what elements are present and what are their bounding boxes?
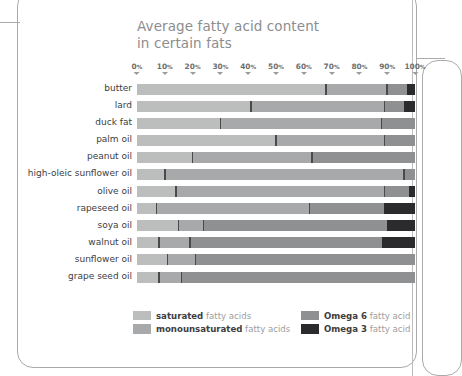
segment-omega6	[384, 186, 409, 197]
segment-divider-2	[203, 220, 205, 231]
x-axis-tick-arrow-icon	[273, 72, 279, 75]
x-axis-tick-percent-sign: %	[195, 64, 201, 70]
segment-monounsaturated	[165, 169, 404, 180]
segment-omega6	[384, 101, 403, 112]
legend-label-bold: saturated	[156, 311, 203, 321]
category-label-sunflower-oil: sunflower oil	[75, 254, 132, 264]
chart-row: soya oil	[0, 219, 445, 236]
stacked-bar	[137, 84, 415, 95]
x-axis-ticks: 0%10%20%30%40%50%60%70%80%90%100%	[137, 62, 415, 78]
legend-item-omega-3[interactable]: Omega 3 fatty acid	[301, 324, 410, 335]
category-label-butter: butter	[104, 83, 132, 93]
x-axis-tick-percent-sign: %	[278, 64, 284, 70]
x-axis-tick-90: 90%	[379, 62, 395, 75]
segment-divider-2	[384, 135, 386, 146]
stacked-bar	[137, 186, 415, 197]
legend-item-omega-6[interactable]: Omega 6 fatty acid	[301, 310, 410, 321]
segment-saturated	[137, 186, 176, 197]
x-axis-tick-label: 50	[268, 62, 278, 71]
legend-label: monounsaturated fatty acids	[156, 324, 290, 334]
category-label-lard: lard	[115, 100, 132, 110]
segment-omega6	[384, 135, 415, 146]
x-axis-tick-80: 80%	[351, 62, 367, 75]
segment-divider-2	[181, 272, 183, 283]
segment-saturated	[137, 152, 193, 163]
x-axis-tick-20: 20%	[185, 62, 201, 75]
segment-divider-1	[158, 237, 160, 248]
segment-omega6	[181, 272, 415, 283]
segment-saturated	[137, 254, 168, 265]
segment-divider-2	[311, 152, 313, 163]
legend-label: saturated fatty acids	[156, 311, 251, 321]
category-label-olive-oil: olive oil	[97, 186, 132, 196]
segment-monounsaturated	[179, 220, 204, 231]
chart-row: olive oil	[0, 185, 445, 202]
legend-label-bold: Omega 3	[324, 324, 367, 334]
chart-title-line-2: in certain fats	[137, 35, 407, 52]
segment-divider-2	[386, 84, 388, 95]
chart-bar-rows: butterlardduck fatpalm oilpeanut oilhigh…	[0, 82, 445, 287]
category-label-palm-oil: palm oil	[96, 134, 132, 144]
segment-divider-1	[250, 101, 252, 112]
x-axis-tick-100: 100%	[404, 62, 425, 75]
segment-divider-2	[384, 186, 386, 197]
segment-omega3	[407, 84, 415, 95]
segment-divider-1	[192, 152, 194, 163]
legend-label-rest: fatty acids	[242, 324, 290, 334]
segment-divider-1	[220, 118, 222, 129]
category-label-grape-seed-oil: grape seed oil	[68, 271, 132, 281]
segment-divider-2	[195, 254, 197, 265]
segment-saturated	[137, 135, 276, 146]
segment-omega6	[387, 84, 406, 95]
segment-omega6	[312, 152, 415, 163]
stacked-bar	[137, 237, 415, 248]
legend-item-saturated[interactable]: saturated fatty acids	[133, 310, 251, 321]
x-axis-tick-label: 20	[185, 62, 195, 71]
x-axis-tick-percent-sign: %	[362, 64, 368, 70]
segment-omega6	[309, 203, 384, 214]
chart-row: sunflower oil	[0, 253, 445, 270]
legend-item-monounsaturated[interactable]: monounsaturated fatty acids	[133, 324, 290, 335]
category-label-peanut-oil: peanut oil	[87, 151, 132, 161]
segment-monounsaturated	[251, 101, 384, 112]
legend-label-bold: Omega 6	[324, 311, 367, 321]
segment-divider-2	[384, 101, 386, 112]
category-label-high-oleic-sunflower-oil: high-oleic sunflower oil	[28, 168, 132, 178]
category-label-soya-oil: soya oil	[98, 220, 132, 230]
legend-swatch-icon	[133, 311, 151, 321]
chart-legend: saturated fatty acidsmonounsaturated fat…	[133, 310, 423, 340]
legend-label-rest: fatty acid	[367, 311, 410, 321]
x-axis-tick-percent-sign: %	[167, 64, 173, 70]
segment-monounsaturated	[220, 118, 381, 129]
x-axis-tick-percent-sign: %	[334, 64, 340, 70]
segment-monounsaturated	[156, 203, 309, 214]
segment-omega6	[382, 118, 415, 129]
segment-monounsaturated	[326, 84, 387, 95]
segment-omega6	[195, 254, 415, 265]
segment-saturated	[137, 203, 156, 214]
segment-divider-1	[178, 220, 180, 231]
segment-divider-1	[175, 186, 177, 197]
x-axis-tick-arrow-icon	[190, 72, 196, 75]
segment-omega3	[387, 220, 415, 231]
stacked-bar	[137, 203, 415, 214]
segment-monounsaturated	[168, 254, 196, 265]
chart-row: butter	[0, 82, 445, 99]
x-axis-tick-arrow-icon	[384, 72, 390, 75]
x-axis-tick-arrow-icon	[245, 72, 251, 75]
segment-monounsaturated	[159, 272, 181, 283]
x-axis-tick-70: 70%	[324, 62, 340, 75]
segment-divider-2	[309, 203, 311, 214]
x-axis-tick-arrow-icon	[356, 72, 362, 75]
stacked-bar	[137, 169, 415, 180]
segment-saturated	[137, 101, 251, 112]
segment-divider-1	[156, 203, 158, 214]
x-axis-tick-label: 80	[351, 62, 361, 71]
segment-divider-1	[164, 169, 166, 180]
x-axis-tick-50: 50%	[268, 62, 284, 75]
x-axis-tick-arrow-icon	[217, 72, 223, 75]
chart-row: walnut oil	[0, 236, 445, 253]
x-axis-tick-percent-sign: %	[137, 64, 143, 70]
legend-label: Omega 6 fatty acid	[324, 311, 410, 321]
